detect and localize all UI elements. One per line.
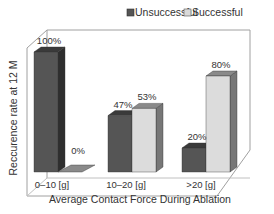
bar-front — [206, 76, 230, 172]
value-label-successful-0: 0% — [71, 145, 85, 156]
value-label-unsuccessful-1: 47% — [113, 99, 133, 110]
bar-side — [156, 103, 163, 172]
value-label-unsuccessful-2: 20% — [187, 131, 207, 142]
legend-swatch-successful — [184, 9, 191, 16]
y-axis-label: Reccurence rate at 12 M — [7, 61, 19, 176]
bar-front — [34, 52, 58, 172]
x-axis-label: Average Contact Force During Ablation — [49, 193, 231, 205]
bar-chart: 100%0%47%53%20%80% Unsuccessful Successf… — [0, 0, 274, 214]
bar-front — [108, 116, 132, 172]
value-label-unsuccessful-0: 100% — [37, 35, 62, 46]
bar-successful-2 — [206, 71, 237, 172]
legend: Unsuccessful Successful — [127, 6, 243, 18]
x-tick-label-1: 10–20 [g] — [106, 179, 146, 190]
legend-label-successful: Successful — [192, 6, 243, 18]
legend-item-successful: Successful — [184, 6, 243, 18]
value-label-successful-2: 80% — [211, 59, 231, 70]
x-tick-label-0: 0–10 [g] — [35, 179, 69, 190]
bar-front — [132, 108, 156, 172]
bar-side — [58, 47, 65, 172]
value-label-successful-1: 53% — [137, 91, 157, 102]
legend-swatch-unsuccessful — [127, 9, 134, 16]
bars-group — [34, 47, 237, 172]
bar-unsuccessful-0 — [34, 47, 65, 172]
x-tick-label-2: >20 [g] — [186, 179, 215, 190]
bar-side — [230, 71, 237, 172]
bar-successful-1 — [132, 103, 163, 172]
bar-front — [182, 148, 206, 172]
